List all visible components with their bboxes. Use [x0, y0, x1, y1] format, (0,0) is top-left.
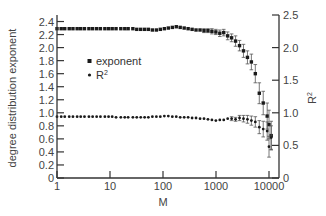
- data-point-r2: [199, 117, 202, 120]
- data-point-r2: [99, 115, 102, 118]
- data-point-r2: [143, 116, 146, 119]
- data-point-r2: [218, 119, 221, 122]
- data-point-r2: [187, 116, 190, 119]
- data-point-r2: [72, 115, 75, 118]
- data-point-exponent: [234, 39, 237, 42]
- y-tick-label-left: 0.6: [39, 133, 54, 145]
- data-point-exponent: [99, 27, 102, 30]
- legend-marker-exponent-icon: [88, 59, 92, 63]
- data-point-exponent: [242, 49, 245, 52]
- data-point-exponent: [222, 31, 225, 34]
- data-point-exponent: [210, 30, 213, 33]
- data-point-r2: [83, 115, 86, 118]
- data-point-exponent: [178, 26, 181, 29]
- data-point-exponent: [79, 27, 82, 30]
- data-point-r2: [115, 116, 118, 119]
- data-point-r2: [147, 116, 150, 119]
- data-point-exponent: [190, 28, 193, 31]
- y-axis-title-left: degree distribution exponent: [6, 29, 18, 168]
- data-point-exponent: [110, 27, 113, 30]
- data-point-r2: [242, 117, 245, 120]
- y-tick-label-left: 0.2: [39, 159, 54, 171]
- data-point-exponent: [126, 27, 129, 30]
- data-point-exponent: [262, 101, 265, 104]
- data-point-exponent: [91, 27, 94, 30]
- data-point-r2: [63, 115, 66, 118]
- data-point-r2: [163, 115, 166, 118]
- legend-label-r2: R2: [96, 69, 108, 81]
- y-tick-label-right: 2.5: [283, 9, 298, 21]
- data-point-r2: [238, 117, 241, 120]
- y-tick-label-left: 1.4: [39, 81, 54, 93]
- x-tick-label: 1000: [204, 180, 228, 192]
- data-point-r2: [127, 116, 130, 119]
- y-tick-label-left: 2.2: [39, 29, 54, 41]
- data-point-exponent: [68, 27, 71, 30]
- data-point-r2: [155, 115, 158, 118]
- data-point-r2: [139, 116, 142, 119]
- data-point-exponent: [171, 26, 174, 29]
- data-point-exponent: [71, 27, 74, 30]
- data-point-r2: [179, 116, 182, 119]
- x-axis-title: M: [158, 196, 167, 208]
- data-point-r2: [151, 115, 154, 118]
- y-tick-label-left: 2.4: [39, 16, 54, 28]
- data-point-exponent: [123, 27, 126, 30]
- data-point-r2: [131, 116, 134, 119]
- chart: 00.20.40.60.81.01.21.41.61.82.02.22.400.…: [0, 0, 326, 216]
- data-point-r2: [135, 116, 138, 119]
- data-point-exponent: [246, 56, 249, 59]
- data-point-r2: [79, 115, 82, 118]
- data-point-exponent: [230, 36, 233, 39]
- data-point-exponent: [155, 28, 158, 31]
- data-point-r2: [171, 115, 174, 118]
- data-point-exponent: [63, 27, 66, 30]
- data-point-r2: [211, 119, 214, 122]
- data-point-exponent: [75, 27, 78, 30]
- data-point-exponent: [87, 27, 90, 30]
- data-point-r2: [258, 126, 261, 129]
- data-point-exponent: [163, 27, 166, 30]
- legend-label-exponent: exponent: [96, 55, 141, 67]
- data-point-r2: [91, 115, 94, 118]
- y-axis-title-right: R2: [306, 92, 318, 104]
- data-point-r2: [88, 115, 91, 118]
- series-exponent: [55, 25, 273, 150]
- data-point-r2: [119, 116, 122, 119]
- data-point-exponent: [202, 29, 205, 32]
- data-point-exponent: [218, 32, 221, 35]
- data-point-r2: [107, 115, 110, 118]
- data-point-exponent: [131, 27, 134, 30]
- data-point-r2: [246, 118, 249, 121]
- y-tick-label-left: 0.4: [39, 146, 54, 158]
- data-point-exponent: [226, 34, 229, 37]
- data-point-r2: [68, 115, 71, 118]
- data-point-r2: [254, 121, 257, 124]
- data-point-exponent: [95, 27, 98, 30]
- data-point-exponent: [59, 27, 62, 30]
- y-tick-label-right: 0.5: [283, 139, 298, 151]
- data-point-r2: [159, 115, 162, 118]
- data-point-exponent: [107, 27, 110, 30]
- data-point-r2: [76, 115, 79, 118]
- data-point-r2: [214, 119, 217, 122]
- data-point-exponent: [186, 27, 189, 30]
- y-tick-label-left: 2.0: [39, 42, 54, 54]
- data-point-exponent: [254, 72, 257, 75]
- data-point-r2: [191, 117, 194, 120]
- data-point-exponent: [139, 28, 142, 31]
- y-tick-label-left: 1.6: [39, 68, 54, 80]
- data-point-r2: [268, 145, 271, 148]
- data-point-exponent: [198, 28, 201, 31]
- data-point-exponent: [159, 28, 162, 31]
- data-point-r2: [60, 115, 63, 118]
- data-point-exponent: [103, 27, 106, 30]
- legend-marker-r2-icon: [88, 73, 91, 76]
- data-point-exponent: [143, 28, 146, 31]
- data-point-exponent: [258, 92, 261, 95]
- x-tick-label: 10000: [254, 180, 285, 192]
- data-point-exponent: [114, 27, 117, 30]
- data-point-exponent: [182, 26, 185, 29]
- y-tick-label-right: 1.0: [283, 107, 298, 119]
- data-point-r2: [167, 115, 170, 118]
